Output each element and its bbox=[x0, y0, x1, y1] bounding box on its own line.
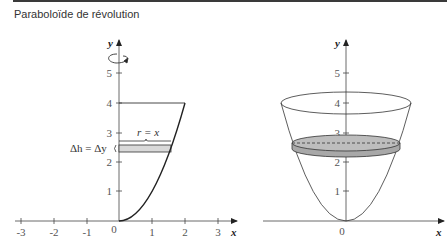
left-x-tick: -3 bbox=[16, 226, 26, 238]
parabola-curve bbox=[119, 103, 185, 221]
volume-strip bbox=[119, 145, 171, 152]
radius-brace bbox=[119, 139, 171, 141]
left-x-axis-label: x bbox=[230, 226, 237, 238]
height-bracket bbox=[115, 145, 117, 152]
rotation-arrow-icon bbox=[109, 54, 128, 63]
right-y-tick: 2 bbox=[335, 156, 341, 168]
left-y-tick: 3 bbox=[107, 127, 113, 139]
left-figure: -3 -2 -1 0 1 2 3 x y 1 2 3 4 5 bbox=[15, 37, 237, 238]
height-label: Δh = Δy bbox=[70, 142, 107, 154]
right-y-tick: 5 bbox=[335, 67, 341, 79]
right-x-axis-label: x bbox=[435, 226, 442, 238]
left-y-tick: 1 bbox=[107, 185, 113, 197]
right-origin-label: 0 bbox=[339, 225, 345, 237]
paraboloid-right-side bbox=[346, 103, 411, 221]
left-y-tick: 5 bbox=[107, 67, 113, 79]
right-y-axis-label: y bbox=[333, 37, 340, 49]
left-x-tick: -2 bbox=[49, 226, 58, 238]
volume-disk bbox=[292, 135, 400, 157]
right-figure: x 0 y 1 2 3 4 5 bbox=[263, 37, 444, 238]
left-x-tick: 2 bbox=[182, 226, 188, 238]
left-x-tick: 1 bbox=[149, 226, 155, 238]
radius-label: r = x bbox=[137, 126, 159, 138]
left-x-tick: -1 bbox=[82, 226, 91, 238]
paraboloid-diagram: -3 -2 -1 0 1 2 3 x y 1 2 3 4 5 bbox=[0, 0, 447, 249]
right-y-tick: 4 bbox=[335, 97, 341, 109]
left-y-axis-label: y bbox=[106, 37, 113, 49]
left-x-tick: 0 bbox=[111, 223, 117, 235]
left-y-tick: 4 bbox=[107, 97, 113, 109]
right-y-tick: 1 bbox=[335, 185, 341, 197]
left-x-tick: 3 bbox=[215, 226, 221, 238]
left-y-tick: 2 bbox=[107, 156, 113, 168]
